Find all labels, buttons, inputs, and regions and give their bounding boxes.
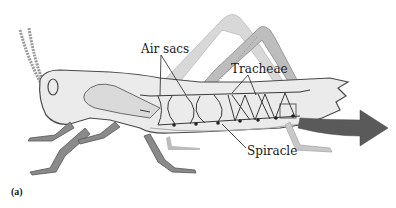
antennae <box>20 28 44 85</box>
panel-label: (a) <box>11 187 23 197</box>
grasshopper-illustration <box>0 0 396 208</box>
label-spiracle: Spiracle <box>247 145 297 157</box>
grasshopper-diagram: Air sacs Tracheae Spiracle (a) <box>0 0 396 208</box>
label-air-sacs: Air sacs <box>141 43 189 55</box>
label-tracheae: Tracheae <box>231 63 288 75</box>
